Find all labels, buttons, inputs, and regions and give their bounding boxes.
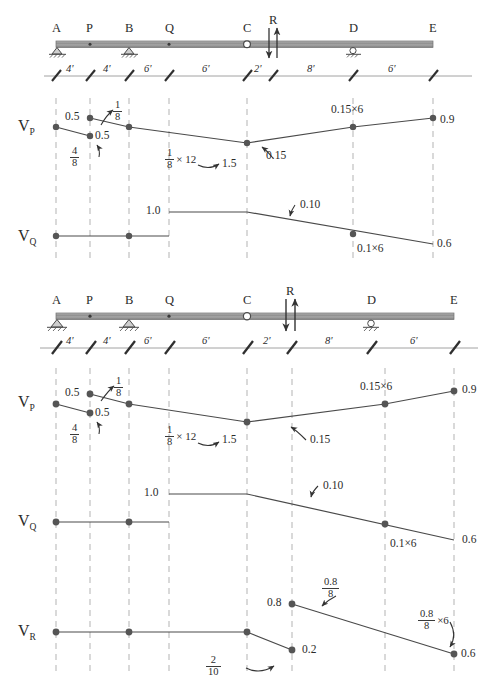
slope-arrow-vq-bottom bbox=[311, 486, 318, 497]
support-D-bottom bbox=[363, 320, 379, 331]
slope-arrow-vq-top bbox=[290, 205, 295, 216]
vr-08-den: 8 bbox=[322, 589, 339, 600]
vq-end-value-bottom: 0.6 bbox=[462, 534, 476, 546]
influence-line-vq-bottom bbox=[56, 494, 454, 540]
beam-label-R-top: R bbox=[269, 14, 277, 27]
beam-label-E-bottom: E bbox=[450, 294, 458, 307]
vp-slope-value-top: 0.15 bbox=[266, 150, 286, 162]
vp-value-upper-top: 0.5 bbox=[65, 111, 79, 123]
vp-18-den-bottom: 8 bbox=[165, 437, 174, 448]
support-B-top bbox=[121, 48, 138, 58]
vp-v-bottom: V bbox=[18, 393, 30, 410]
axis-label-vp-bottom: VP bbox=[18, 394, 35, 414]
vp-value-lower-top: 0.5 bbox=[95, 130, 109, 142]
beam-label-R-bottom: R bbox=[286, 285, 294, 298]
vq-unit-value-bottom: 1.0 bbox=[144, 487, 158, 499]
influence-points-vq-bottom bbox=[53, 519, 389, 528]
vr-210-num: 2 bbox=[206, 655, 221, 667]
vr-sub-bottom: R bbox=[30, 632, 36, 642]
influence-line-vr-bottom bbox=[56, 604, 454, 654]
dimension-6-top: 8' bbox=[307, 64, 315, 75]
vp-18-num-top: 1 bbox=[165, 148, 174, 160]
vr-slope-fraction: 0.88 bbox=[322, 577, 339, 599]
influence-points-vp-top bbox=[53, 115, 436, 146]
dimension-2-top: 4' bbox=[103, 64, 111, 75]
support-D-top bbox=[346, 48, 361, 58]
vp-frac-num-bottom: 1 bbox=[114, 376, 123, 388]
support-A-bottom bbox=[47, 320, 67, 332]
dimension-5-top: 2' bbox=[254, 64, 262, 75]
vp-frac-den-top: 8 bbox=[113, 112, 122, 123]
dimension-4-bottom: 6' bbox=[202, 336, 210, 347]
vp-frac-num-top: 1 bbox=[113, 100, 122, 112]
influence-line-vq-top bbox=[56, 212, 433, 244]
vr-210-den: 10 bbox=[206, 667, 221, 678]
vp-sub-top: P bbox=[30, 127, 35, 137]
vp-product-top: 18 × 12 bbox=[165, 143, 196, 170]
vp-product-bottom: 18 × 12 bbox=[165, 420, 196, 447]
influence-points-vr-bottom bbox=[53, 601, 458, 658]
beam-label-Q-top: Q bbox=[165, 22, 174, 35]
beam-label-A-top: A bbox=[52, 22, 61, 35]
slope-arrows-vp-bottom bbox=[97, 386, 306, 446]
vq-v-bottom: V bbox=[18, 512, 30, 529]
vp-48-den-top: 8 bbox=[70, 158, 79, 169]
dimension-4-top: 6' bbox=[202, 64, 210, 75]
axis-label-vr-bottom: VR bbox=[18, 623, 36, 643]
vp-slope-fraction-top: 18 bbox=[113, 100, 122, 122]
vp-18-suffix-top: × 12 bbox=[176, 154, 196, 165]
vq-sub-bottom: Q bbox=[30, 522, 37, 532]
vp-slope-fraction-bottom: 18 bbox=[114, 376, 123, 398]
beam-label-B-bottom: B bbox=[125, 294, 133, 307]
vr-fraction-2-10: 210 bbox=[206, 655, 221, 677]
vr-v-bottom: V bbox=[18, 622, 30, 639]
vp-end-value-top: 0.9 bbox=[440, 114, 454, 126]
vp-18-den-top: 8 bbox=[165, 160, 174, 171]
vp-fraction-4-8-top: 48 bbox=[70, 146, 79, 168]
dimension-3-bottom: 6' bbox=[144, 336, 152, 347]
vr-08-num: 0.8 bbox=[322, 577, 339, 589]
vq-v-top: V bbox=[18, 227, 30, 244]
vp-slope-value-bottom: 0.15 bbox=[310, 434, 330, 446]
dimension-3-top: 6' bbox=[144, 64, 152, 75]
beam-label-E-top: E bbox=[429, 22, 437, 35]
support-A-top bbox=[49, 48, 66, 58]
vr-product-right: 0.88 ×6 bbox=[418, 604, 449, 631]
vp-end-value-bottom: 0.9 bbox=[462, 384, 476, 396]
beam-label-C-bottom: C bbox=[243, 294, 251, 307]
beam-label-P-bottom: P bbox=[86, 294, 93, 307]
vq-sub-top: Q bbox=[30, 237, 37, 247]
support-B-bottom bbox=[119, 320, 139, 332]
dimension-1-bottom: 4' bbox=[66, 336, 74, 347]
vp-peak-value-bottom: 1.5 bbox=[222, 434, 236, 446]
dimension-7-top: 6' bbox=[388, 64, 396, 75]
vp-48-den-bottom: 8 bbox=[70, 435, 79, 446]
beam-label-Q-bottom: Q bbox=[165, 294, 174, 307]
vq-product-top: 0.1×6 bbox=[357, 243, 384, 255]
vr-08b-suffix: ×6 bbox=[437, 615, 449, 626]
vp-sub-bottom: P bbox=[30, 403, 35, 413]
vp-product-right-top: 0.15×6 bbox=[331, 104, 363, 116]
vq-end-value-top: 0.6 bbox=[437, 238, 451, 250]
vp-product-right-bottom: 0.15×6 bbox=[360, 381, 392, 393]
diagram-canvas bbox=[0, 0, 504, 684]
vp-18-num-bottom: 1 bbox=[165, 425, 174, 437]
vq-slope-value-top: 0.10 bbox=[300, 199, 320, 211]
vp-48-num-bottom: 4 bbox=[70, 423, 79, 435]
dimension-7-bottom: 6' bbox=[410, 336, 418, 347]
vp-value-lower-bottom: 0.5 bbox=[95, 407, 109, 419]
vr-08b-num: 0.8 bbox=[418, 609, 435, 621]
beam-label-A-bottom: A bbox=[52, 294, 61, 307]
axis-label-vp-top: VP bbox=[18, 118, 35, 138]
axis-label-vq-top: VQ bbox=[18, 228, 36, 248]
vp-frac-den-bottom: 8 bbox=[114, 388, 123, 399]
beam-top bbox=[56, 41, 433, 48]
vp-value-upper-bottom: 0.5 bbox=[65, 387, 79, 399]
influence-points-vq-top bbox=[53, 231, 356, 239]
beam-label-B-top: B bbox=[125, 22, 133, 35]
axis-label-vq-bottom: VQ bbox=[18, 513, 36, 533]
vr-08b-den: 8 bbox=[418, 621, 435, 632]
beam-label-C-top: C bbox=[243, 22, 251, 35]
dimension-1-top: 4' bbox=[66, 64, 74, 75]
vr-end-value: 0.6 bbox=[461, 648, 475, 660]
